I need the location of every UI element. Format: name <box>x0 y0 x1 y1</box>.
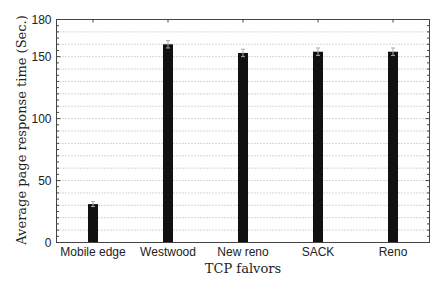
bar-chart: 050100150180 Mobile edgeWestwoodNew reno… <box>0 0 446 288</box>
y-tick-label: 100 <box>31 112 51 126</box>
y-tick-label: 180 <box>31 13 51 27</box>
x-axis-title: TCP falvors <box>205 261 281 276</box>
y-tick-label: 0 <box>45 236 52 250</box>
x-tick-label: Westwood <box>140 245 196 259</box>
bar <box>388 52 398 243</box>
y-tick-label: 50 <box>38 174 52 188</box>
bars <box>88 41 398 243</box>
y-tick-label: 150 <box>31 50 51 64</box>
x-tick-labels: Mobile edgeWestwoodNew renoSACKReno <box>60 245 407 259</box>
bar <box>163 44 173 242</box>
x-tick-label: SACK <box>302 245 335 259</box>
y-tick-labels: 050100150180 <box>31 13 51 250</box>
x-tick-label: Reno <box>379 245 408 259</box>
x-tick-label: New reno <box>217 245 269 259</box>
bar <box>88 204 98 242</box>
y-axis-title: Average page response time (Sec.) <box>14 15 29 246</box>
x-tick-label: Mobile edge <box>60 245 126 259</box>
bar <box>238 53 248 243</box>
bar <box>313 52 323 243</box>
